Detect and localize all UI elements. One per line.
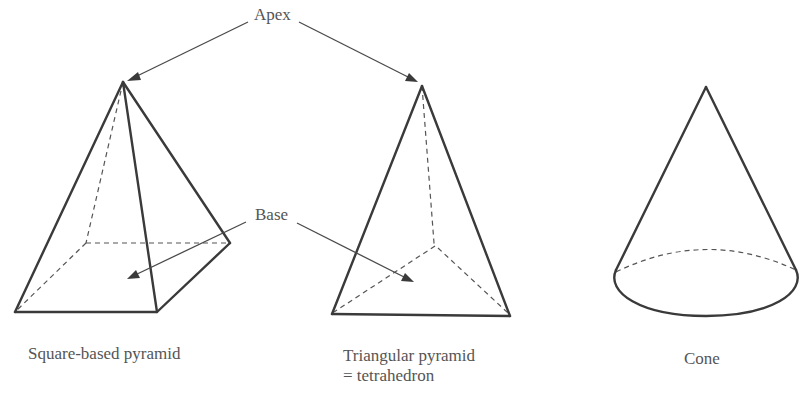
cone [614,87,797,316]
base-arrows [127,222,414,282]
diagram-canvas [0,0,802,399]
caption-cone: Cone [684,349,720,369]
square-pyramid [15,82,230,312]
caption-square-pyramid: Square-based pyramid [28,344,180,364]
caption-triangular-pyramid: Triangular pyramid [343,346,475,366]
triangular-pyramid [332,86,510,316]
apex-arrows [127,22,418,82]
caption-tetrahedron: = tetrahedron [343,366,434,386]
arrowhead-icon [127,270,140,279]
base-label: Base [255,205,288,225]
solids-diagram: Apex Base Square-based pyramid Triangula… [0,0,802,399]
arrowhead-icon [405,73,418,82]
apex-label: Apex [254,5,291,25]
arrowhead-icon [127,72,141,81]
arrowhead-icon [401,273,414,282]
